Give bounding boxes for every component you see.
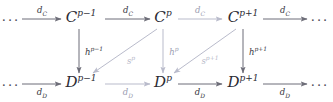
ellipsis-top-left: ···: [2, 13, 20, 28]
node-base: C: [66, 8, 78, 26]
node-exponent: p+1: [240, 73, 259, 83]
node-base: C: [154, 8, 166, 26]
label-subscript: C: [42, 10, 47, 17]
commutative-diagram: ··· ··· ··· ··· Cp−1 Cp Cp+1 Dp−1 Dp Dp+…: [0, 0, 333, 102]
label-subscript: C: [128, 10, 133, 17]
ellipsis-bottom-left: ···: [2, 78, 20, 93]
node-base: D: [227, 73, 239, 91]
node-D-p-plus-1: Dp+1: [227, 73, 258, 91]
label-dC-0: dC: [37, 5, 47, 17]
label-exponent: p: [131, 54, 135, 61]
label-s-p-plus-1: sp+1: [201, 54, 218, 66]
label-exponent: p+1: [206, 54, 219, 61]
node-C-p-plus-1: Cp+1: [228, 8, 259, 26]
label-subscript: D: [128, 92, 133, 99]
node-C-p: Cp: [154, 8, 171, 26]
label-dD-0: dD: [37, 87, 47, 99]
label-exponent: p−1: [90, 45, 103, 52]
node-exponent: p: [166, 8, 172, 18]
node-base: D: [154, 73, 166, 91]
label-subscript: C: [200, 10, 205, 17]
label-dD-3: dD: [280, 87, 290, 99]
node-base: C: [228, 8, 240, 26]
label-dC-1: dC: [123, 5, 133, 17]
label-exponent: p: [175, 45, 179, 52]
label-exponent: p+1: [254, 45, 267, 52]
ellipsis-bottom-right: ···: [311, 78, 329, 93]
node-base: D: [65, 73, 77, 91]
node-exponent: p−1: [78, 73, 97, 83]
node-D-p: Dp: [154, 73, 172, 91]
node-C-p-minus-1: Cp−1: [66, 8, 97, 26]
label-h-p-plus-1: hp+1: [249, 45, 267, 57]
node-exponent: p+1: [239, 8, 258, 18]
diagonal-arrow-1: [174, 29, 236, 73]
label-dD-2: dD: [195, 87, 205, 99]
node-exponent: p−1: [77, 8, 96, 18]
label-subscript: D: [42, 92, 47, 99]
label-subscript: D: [285, 92, 290, 99]
label-dC-2: dC: [195, 5, 205, 17]
label-h-p-minus-1: hp−1: [85, 45, 103, 57]
label-subscript: C: [285, 10, 290, 17]
node-D-p-minus-1: Dp−1: [65, 73, 96, 91]
label-subscript: D: [200, 92, 205, 99]
ellipsis-top-right: ···: [311, 13, 329, 28]
label-s-p: sp: [127, 54, 135, 66]
label-h-p: hp: [169, 45, 178, 57]
label-dD-1: dD: [123, 87, 133, 99]
label-dC-3: dC: [280, 5, 290, 17]
node-exponent: p: [166, 73, 172, 83]
